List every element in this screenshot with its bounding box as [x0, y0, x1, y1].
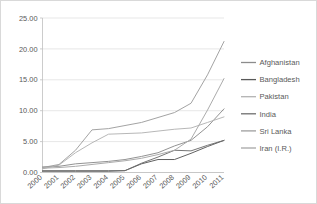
x-axis-tick-labels: 2000200120022003200420052006200720082009…	[26, 173, 226, 191]
x-axis-tick-label: 2006	[125, 173, 143, 191]
x-axis-tick-label: 2002	[59, 173, 77, 191]
data-series-group	[43, 41, 225, 171]
x-axis-tick-label: 2005	[108, 173, 126, 191]
line-chart-plot: 0.005.0010.0015.0020.0025.00 20002001200…	[1, 1, 317, 204]
x-axis-tick-label: 2011	[207, 173, 225, 190]
legend-label: Afghanistan	[260, 58, 300, 67]
x-axis-tick-label: 2007	[141, 173, 159, 191]
legend-label: Sri Lanka	[260, 127, 293, 136]
y-axis-tick-label: 5.00	[23, 137, 37, 146]
x-axis-tick-label: 2001	[42, 173, 60, 191]
y-axis-tick-label: 10.00	[19, 106, 38, 115]
y-axis-tick-label: 15.00	[19, 75, 38, 84]
series-line-pakistan	[43, 117, 225, 169]
y-axis-tick-label: 20.00	[19, 45, 38, 54]
legend-label: Pakistan	[260, 92, 289, 101]
y-axis-tick-label: 25.00	[19, 14, 38, 23]
y-axis-tick-labels: 0.005.0010.0015.0020.0025.00	[19, 14, 38, 178]
legend-label: Bangladesh	[260, 75, 300, 84]
legend-label: India	[260, 110, 277, 119]
x-axis-tick-label: 2004	[92, 173, 110, 191]
x-axis-tick-label: 2009	[174, 173, 192, 191]
chart-legend: AfghanistanBangladeshPakistanIndiaSri La…	[241, 58, 300, 153]
legend-label: Iran (I.R.)	[260, 144, 293, 153]
x-axis-tick-label: 2003	[75, 173, 93, 191]
chart-figure: 0.005.0010.0015.0020.0025.00 20002001200…	[0, 0, 317, 204]
x-axis-tick-label: 2008	[158, 173, 176, 191]
series-line-afghanistan	[43, 109, 225, 167]
x-axis-tick-label: 2010	[191, 173, 209, 191]
